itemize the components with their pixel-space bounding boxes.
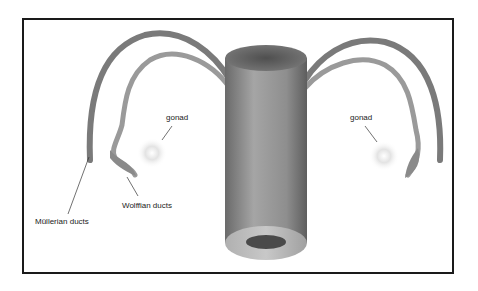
label-wolffian-ducts: Wolffian ducts — [122, 202, 172, 210]
label-gonad-left: gonad — [166, 114, 188, 122]
label-gonad-right: gonad — [350, 114, 372, 122]
gonad-right — [369, 141, 399, 171]
central-cylinder — [225, 45, 307, 260]
leader-gonad-left — [162, 126, 172, 140]
leader-wolffian — [127, 177, 138, 196]
gonad-left — [137, 138, 167, 168]
leader-mullerian — [68, 157, 89, 214]
duct-diagram — [0, 0, 478, 291]
label-mullerian-ducts: Müllerian ducts — [35, 218, 89, 226]
cylinder-lumen — [246, 235, 286, 249]
leader-gonad-right — [365, 126, 377, 142]
